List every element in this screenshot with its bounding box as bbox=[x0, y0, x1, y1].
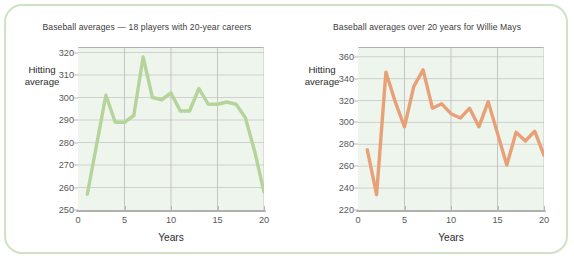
plot-area-left bbox=[78, 48, 264, 210]
x-axis-tick-label: 5 bbox=[122, 215, 127, 225]
y-axis-tick-label: 360 bbox=[320, 52, 354, 62]
y-axis-tick-label: 220 bbox=[320, 205, 354, 215]
chart-title-right: Baseball averages over 20 years for Will… bbox=[286, 22, 568, 32]
x-axis-tick-mark bbox=[125, 206, 126, 211]
x-axis-tick-label: 15 bbox=[492, 215, 502, 225]
y-axis-tick-label: 310 bbox=[40, 70, 74, 80]
y-axis-tick-label: 260 bbox=[320, 161, 354, 171]
x-axis-tick-mark bbox=[405, 206, 406, 211]
y-axis-tick-label: 320 bbox=[320, 96, 354, 106]
x-axis-tick-label: 0 bbox=[355, 215, 360, 225]
y-axis-tick-label: 290 bbox=[40, 115, 74, 125]
y-axis-tick-label: 260 bbox=[40, 183, 74, 193]
data-series-line bbox=[367, 70, 544, 195]
x-axis-tick-label: 10 bbox=[166, 215, 176, 225]
y-axis-tick-label: 320 bbox=[40, 48, 74, 58]
chart-panel-right: Baseball averages over 20 years for Will… bbox=[286, 6, 568, 256]
x-axis-tick-label: 20 bbox=[539, 215, 549, 225]
x-axis-tick-label: 20 bbox=[259, 215, 269, 225]
x-axis-tick-label: 15 bbox=[212, 215, 222, 225]
x-axis-tick-label: 10 bbox=[446, 215, 456, 225]
y-axis-tick-label: 300 bbox=[40, 93, 74, 103]
y-axis-tick-label: 340 bbox=[320, 74, 354, 84]
x-axis-ticks-left: 05101520 bbox=[78, 212, 264, 228]
y-axis-ticks-right: 220240260280300320340360 bbox=[316, 48, 354, 210]
y-axis-tick-label: 280 bbox=[320, 139, 354, 149]
x-axis-ticks-right: 05101520 bbox=[358, 212, 544, 228]
x-axis-tick-label: 5 bbox=[402, 215, 407, 225]
y-axis-tick-label: 300 bbox=[320, 117, 354, 127]
y-axis-tick-label: 240 bbox=[320, 183, 354, 193]
plot-area-right bbox=[358, 48, 544, 210]
x-axis-label-right: Years bbox=[358, 232, 544, 243]
x-axis-tick-mark bbox=[544, 206, 545, 211]
data-series-line bbox=[87, 57, 264, 194]
x-axis-tick-mark bbox=[451, 206, 452, 211]
y-axis-tick-label: 270 bbox=[40, 160, 74, 170]
x-axis-label-left: Years bbox=[78, 232, 264, 243]
x-axis-tick-mark bbox=[171, 206, 172, 211]
chart-title-left: Baseball averages — 18 players with 20-y… bbox=[6, 22, 288, 32]
plot-canvas-left bbox=[78, 48, 264, 210]
x-axis-tick-mark bbox=[264, 206, 265, 211]
x-axis-tick-mark bbox=[498, 206, 499, 211]
x-axis-tick-mark bbox=[218, 206, 219, 211]
x-axis-tick-label: 0 bbox=[75, 215, 80, 225]
figure-frame: Baseball averages — 18 players with 20-y… bbox=[4, 4, 568, 254]
chart-panel-left: Baseball averages — 18 players with 20-y… bbox=[6, 6, 288, 256]
y-axis-tick-label: 280 bbox=[40, 138, 74, 148]
plot-canvas-right bbox=[358, 48, 544, 210]
y-axis-ticks-left: 250260270280290300310320 bbox=[36, 48, 74, 210]
y-axis-tick-label: 250 bbox=[40, 205, 74, 215]
